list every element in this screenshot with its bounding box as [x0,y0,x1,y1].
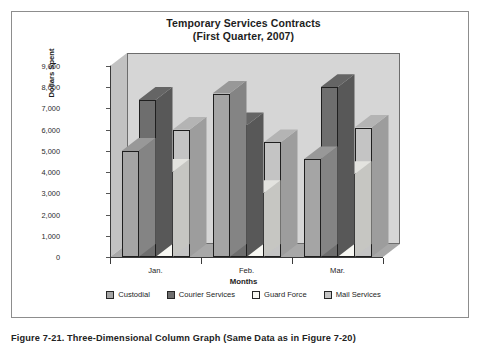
y-tick-mark [106,66,110,67]
legend-label: Courier Services [179,290,235,299]
y-tick-label: 0 [56,253,60,262]
y-tick-label: 2,000 [42,210,61,219]
bar-side-face [139,138,157,257]
bar-side-face [281,129,299,257]
bar-custodial-feb[interactable] [213,81,247,257]
bar-front-face [122,151,139,257]
y-tick-label: 3,000 [42,189,61,198]
x-tick-label: Mar. [292,266,383,275]
legend-label: Custodial [118,290,150,299]
y-tick-mark [106,172,110,173]
y-tick-mark [106,215,110,216]
y-tick-label: 6,000 [42,125,61,134]
x-tick-mark [292,258,293,264]
x-tick-mark [201,258,202,264]
bar-front-face [304,159,321,257]
figure-caption: Figure 7-21. Three-Dimensional Column Gr… [11,333,481,343]
legend-item-courier-services[interactable]: Courier Services [167,290,235,299]
bar-side-face [372,115,390,257]
bar-custodial-mar[interactable] [304,146,338,257]
bar-side-face [321,146,339,257]
legend-swatch [252,291,260,299]
y-tick-label: 9,000 [42,62,61,71]
legend-item-guard-force[interactable]: Guard Force [252,290,307,299]
y-tick-label: 1,000 [42,231,61,240]
legend-label: Guard Force [264,290,307,299]
bar-side-face [264,180,282,257]
x-tick-label: Jan. [110,266,201,275]
y-tick-mark [106,108,110,109]
legend-item-custodial[interactable]: Custodial [106,290,150,299]
bar-side-face [355,161,373,257]
bar-side-face [247,112,265,257]
bar-side-face [230,81,248,257]
legend-swatch [106,291,114,299]
x-tick-mark [383,258,384,264]
bar-front-face [213,94,230,257]
y-tick-label: 5,000 [42,146,61,155]
legend-swatch [324,291,332,299]
bar-side-face [173,159,191,257]
bar-custodial-jan[interactable] [122,138,156,257]
y-tick-label: 7,000 [42,104,61,113]
y-tick-label: 4,000 [42,168,61,177]
bar-side-face [190,117,208,257]
chart-canvas: Dollars Spent 9,0008,0007,0006,0005,0004… [0,0,487,346]
x-tick-label: Feb. [201,266,292,275]
legend-item-mail-services[interactable]: Mail Services [324,290,381,299]
y-tick-mark [106,87,110,88]
y-tick-mark [106,130,110,131]
bar-side-face [156,87,174,257]
y-tick-mark [106,151,110,152]
x-axis-title: Months [0,277,487,286]
chart-legend: CustodialCourier ServicesGuard ForceMail… [0,290,487,299]
x-tick-mark [110,258,111,264]
y-tick-mark [106,193,110,194]
figure-page: Temporary Services Contracts (First Quar… [0,0,487,346]
y-tick-mark [106,236,110,237]
bar-side-face [338,74,356,257]
legend-label: Mail Services [336,290,381,299]
x-axis-line [110,257,383,258]
y-tick-label: 8,000 [42,83,61,92]
legend-swatch [167,291,175,299]
y-axis-line [110,66,111,258]
